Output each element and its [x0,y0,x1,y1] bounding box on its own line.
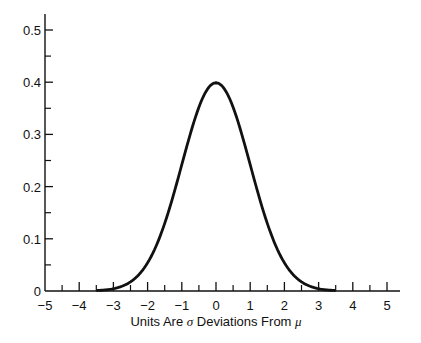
plot-area: 00.10.20.30.40.5−5−4−3−2−1012345 [23,14,400,313]
x-tick-label: −4 [72,298,87,313]
x-tick-label: −2 [140,298,155,313]
y-tick-label: 0.5 [23,23,41,38]
x-axis-label: Units Are σ Deviations From μ [130,314,302,329]
x-tick-label: 1 [247,298,254,313]
y-tick-label: 0.2 [23,180,41,195]
y-tick-label: 0 [34,284,41,299]
y-tick-label: 0.1 [23,232,41,247]
density-curve [96,83,335,291]
x-tick-label: 0 [212,298,219,313]
normal-distribution-chart: 00.10.20.30.40.5−5−4−3−2−1012345 Units A… [0,0,421,343]
x-tick-label: 3 [315,298,322,313]
x-tick-label: 4 [349,298,356,313]
x-tick-label: −3 [106,298,121,313]
y-tick-label: 0.4 [23,75,41,90]
x-tick-label: 5 [383,298,390,313]
x-tick-label: 2 [281,298,288,313]
x-tick-label: −5 [38,298,53,313]
y-tick-label: 0.3 [23,127,41,142]
x-tick-label: −1 [174,298,189,313]
